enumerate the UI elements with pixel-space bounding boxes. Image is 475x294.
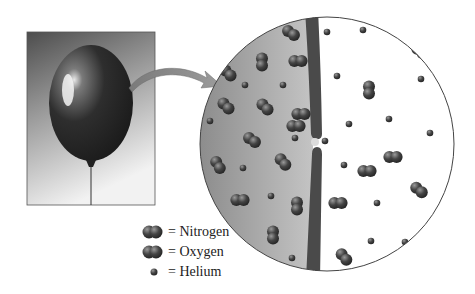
- diatomic-molecule-icon: [267, 225, 279, 244]
- balloon-photo: [27, 32, 155, 205]
- legend: = Nitrogen = Oxygen = Helium: [140, 222, 260, 282]
- helium-atom-icon: [242, 82, 249, 89]
- helium-atom-icon: [402, 249, 409, 256]
- diatomic-molecule-icon: [328, 197, 347, 209]
- helium-atom-icon: [324, 29, 331, 36]
- helium-atom-icon: [360, 27, 367, 34]
- helium-atom-icon: [240, 165, 247, 172]
- helium-atom-icon: [289, 255, 296, 262]
- helium-atom-icon: [334, 73, 341, 80]
- legend-item-helium: = Helium: [140, 262, 260, 282]
- helium-atom-icon: [292, 135, 299, 142]
- helium-atom-icon: [418, 76, 425, 83]
- diatomic-molecule-icon: [357, 165, 376, 177]
- diatomic-molecule-icon: [383, 151, 402, 163]
- helium-atom-icon: [427, 130, 434, 137]
- diatomic-molecule-icon: [291, 108, 310, 120]
- legend-item-nitrogen: = Nitrogen: [140, 222, 260, 242]
- nitrogen-molecule-icon: [140, 224, 166, 240]
- helium-atom-icon: [140, 264, 166, 280]
- helium-atom-icon: [346, 121, 353, 128]
- helium-atom-icon: [341, 162, 348, 169]
- helium-atom-icon: [268, 193, 275, 200]
- helium-atom-icon: [386, 116, 393, 123]
- oxygen-molecule-icon: [140, 244, 166, 260]
- helium-atom-icon: [374, 200, 381, 207]
- helium-atom-icon: [207, 118, 214, 125]
- diatomic-molecule-icon: [288, 55, 307, 67]
- diatomic-molecule-icon: [363, 80, 375, 99]
- legend-item-oxygen: = Oxygen: [140, 242, 260, 262]
- helium-atom-icon: [280, 82, 287, 89]
- diatomic-molecule-icon: [286, 120, 305, 132]
- balloon: [49, 45, 133, 161]
- legend-label: = Oxygen: [168, 244, 224, 260]
- helium-atom-icon: [368, 238, 375, 245]
- diatomic-molecule-icon: [291, 196, 303, 215]
- legend-label: = Helium: [168, 264, 221, 280]
- legend-label: = Nitrogen: [168, 224, 229, 240]
- diatomic-molecule-icon: [256, 52, 268, 71]
- helium-atom-icon: [322, 138, 329, 145]
- diatomic-molecule-icon: [230, 194, 249, 206]
